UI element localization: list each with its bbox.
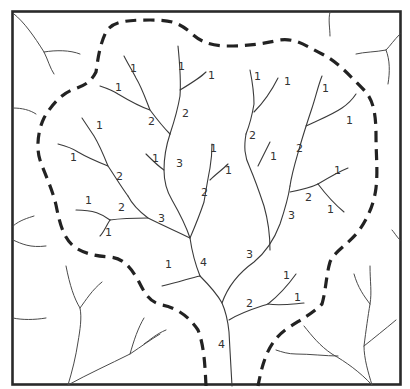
outside-stream-left-b: [13, 216, 34, 226]
stream-order-label: 3: [176, 157, 183, 170]
outside-stream-bottom-right: [364, 266, 372, 385]
stream-order-1-bottom-a: [268, 274, 296, 304]
outside-stream-bottom-right-e: [276, 350, 338, 356]
stream-order-label: 1: [208, 69, 215, 82]
stream-order-label: 1: [105, 226, 112, 239]
stream-order-label: 2: [305, 191, 312, 204]
outside-stream-right-upper: [356, 34, 400, 54]
outside-stream-left-d: [13, 318, 46, 320]
stream-order-labels: 111122112131121213141121112121331214: [70, 60, 353, 351]
stream-order-label: 2: [249, 129, 256, 142]
stream-order-1-bottom-left: [162, 276, 200, 286]
stream-order-label: 3: [246, 248, 253, 261]
stream-order-label: 2: [148, 115, 155, 128]
stream-order-3-left: [164, 134, 200, 276]
stream-order-label: 2: [118, 201, 125, 214]
stream-order-3-right: [222, 186, 290, 303]
stream-order-2-right-top: [246, 70, 254, 134]
stream-order-label: 2: [296, 142, 303, 155]
stream-order-label: 4: [218, 338, 225, 351]
drainage-basin-diagram: 111122112131121213141121112121331214: [0, 0, 410, 389]
stream-order-label: 1: [85, 194, 92, 207]
stream-order-label: 1: [96, 119, 103, 132]
stream-order-label: 4: [200, 256, 207, 269]
outside-stream-left-a: [13, 108, 36, 114]
outside-stream-right-mid: [392, 230, 400, 240]
stream-order-label: 3: [158, 212, 165, 225]
stream-order-2-lower: [110, 218, 148, 220]
stream-order-1-right-mid: [258, 142, 270, 166]
stream-order-label: 1: [70, 151, 77, 164]
stream-order-label: 1: [254, 70, 261, 83]
outside-stream-right-upper-b: [386, 50, 389, 84]
stream-order-label: 2: [182, 107, 189, 120]
stream-order-label: 2: [201, 186, 208, 199]
stream-order-label: 1: [322, 82, 329, 95]
stream-order-label: 1: [178, 60, 185, 73]
stream-order-1-nw: [100, 86, 150, 110]
stream-order-1-right-top: [254, 78, 278, 112]
stream-order-2-right-low: [290, 184, 318, 192]
stream-order-label: 1: [115, 81, 122, 94]
outside-stream-bottom-left-b: [80, 282, 102, 308]
stream-order-label: 1: [327, 203, 334, 216]
stream-order-label: 1: [210, 142, 217, 155]
stream-order-1-right-c: [318, 168, 348, 184]
stream-order-2-right: [290, 76, 322, 186]
outside-stream-left-c: [13, 240, 46, 247]
outside-stream-bottom-right-c: [354, 274, 370, 304]
stream-order-1-lower-a: [76, 210, 110, 220]
outside-stream-bottom-right-b: [364, 320, 396, 346]
stream-order-label: 1: [284, 75, 291, 88]
stream-order-label: 3: [288, 209, 295, 222]
stream-order-label: 1: [283, 269, 290, 282]
stream-order-label: 2: [246, 297, 253, 310]
outside-stream-top-right: [329, 12, 330, 36]
stream-order-label: 1: [294, 291, 301, 304]
stream-order-label: 1: [225, 164, 232, 177]
stream-order-label: 2: [116, 170, 123, 183]
outside-stream-top-left: [14, 14, 54, 74]
stream-order-label: 1: [165, 258, 172, 271]
stream-order-label: 1: [152, 152, 159, 165]
outside-stream-top-left-b: [44, 51, 80, 54]
outside-stream-bottom-left-c: [68, 334, 160, 385]
stream-order-label: 1: [346, 114, 353, 127]
stream-order-label: 1: [130, 62, 137, 75]
stream-order-2-left: [82, 118, 128, 196]
stream-order-label: 1: [334, 164, 341, 177]
outside-stream-bottom-left: [66, 266, 81, 385]
outside-stream-bottom-left-d: [130, 318, 144, 354]
stream-order-1-top-right: [180, 72, 206, 90]
stream-order-3-right-upper: [245, 134, 270, 250]
stream-order-label: 1: [270, 150, 277, 163]
